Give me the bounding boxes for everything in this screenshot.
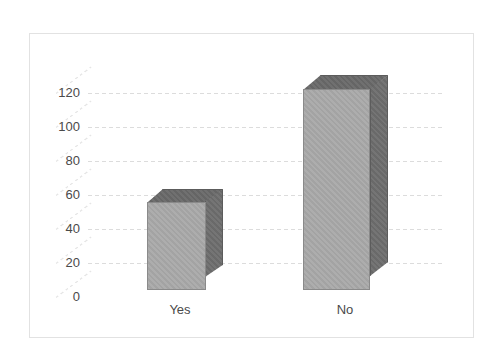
gridline-100 [88,127,444,128]
bar-yes-front-face [147,202,206,290]
bar-yes-side-face [205,189,223,277]
x-axis-label-yes: Yes [140,303,220,317]
bar-no-front-face [303,89,370,290]
gridline-40 [88,229,444,230]
x-axis-label-no: No [305,303,385,317]
y-axis-tick-label: 100 [22,120,80,133]
chart-container: 120 100 80 60 40 20 0 [0,0,501,358]
y-axis-tick-label: 20 [22,256,80,269]
y-axis-tick-label: 60 [22,188,80,201]
gridline-120 [88,93,444,94]
y-axis-tick-label: 0 [22,290,80,303]
gridline-80 [88,161,444,162]
plot-area: 120 100 80 60 40 20 0 [0,0,501,358]
gridline-20 [88,263,444,264]
y-axis-tick-label: 120 [22,86,80,99]
bar-no-side-face [370,75,388,276]
gridline-60 [88,195,444,196]
y-axis-tick-label: 80 [22,154,80,167]
y-axis-tick-label: 40 [22,222,80,235]
